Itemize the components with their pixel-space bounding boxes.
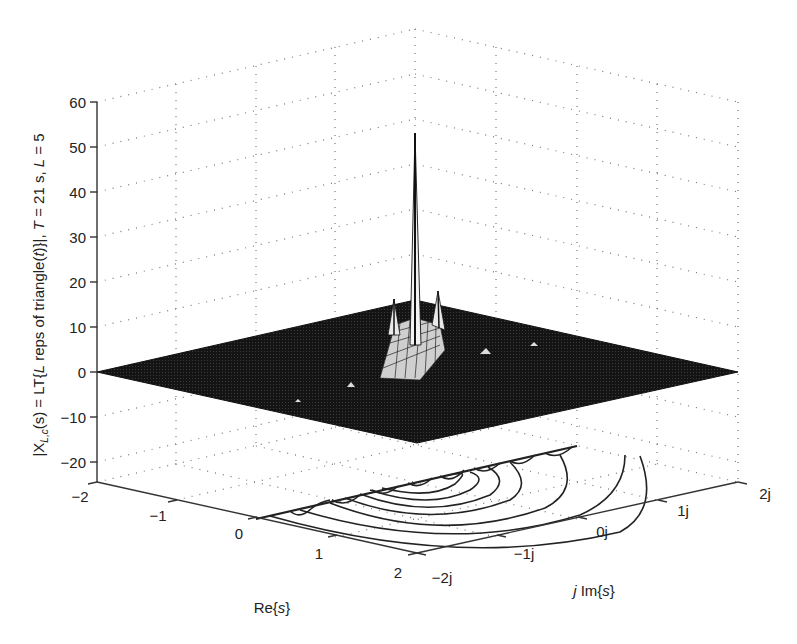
svg-text:1j: 1j (677, 502, 689, 519)
svg-text:0j: 0j (596, 523, 608, 540)
svg-text:2: 2 (394, 564, 402, 581)
svg-text:0: 0 (78, 364, 86, 381)
x-tick-labels: −2 −1 0 1 2 (71, 488, 402, 581)
contour-projection (256, 446, 647, 548)
surface-plot: 60 50 40 30 20 10 0 −10 −20 −2 −1 0 1 2 … (0, 0, 797, 644)
y-axis-title: j Im{s} (571, 582, 615, 599)
svg-text:20: 20 (69, 274, 86, 291)
z-axis-title: |XL,c(s) = LT{L reps of triangle(t)}|, T… (30, 133, 50, 456)
svg-text:50: 50 (69, 139, 86, 156)
svg-text:−10: −10 (61, 409, 86, 426)
surface (97, 133, 738, 443)
svg-text:10: 10 (69, 319, 86, 336)
svg-text:1: 1 (315, 545, 323, 562)
svg-text:−1: −1 (149, 507, 166, 524)
x-axis-title: Re{s} (254, 599, 291, 616)
y-tick-labels: −2j −1j 0j 1j 2j (432, 485, 771, 586)
svg-text:−2: −2 (71, 488, 88, 505)
svg-text:2j: 2j (759, 485, 771, 502)
svg-text:40: 40 (69, 184, 86, 201)
svg-text:0: 0 (235, 525, 243, 542)
svg-text:−1j: −1j (514, 545, 534, 562)
z-tick-labels: 60 50 40 30 20 10 0 −10 −20 (61, 94, 86, 471)
svg-text:30: 30 (69, 229, 86, 246)
svg-text:60: 60 (69, 94, 86, 111)
svg-text:−20: −20 (61, 454, 86, 471)
svg-text:−2j: −2j (432, 569, 452, 586)
